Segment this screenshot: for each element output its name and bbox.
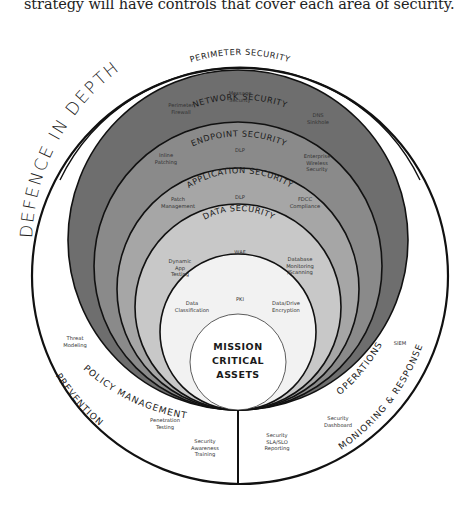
defence-in-depth-diagram: MISSION CRITICAL ASSETS DEFENCE IN DEPTH…: [0, 0, 467, 511]
control-label: SecuritySLA/SLOReporting: [264, 432, 289, 452]
core-line-1: MISSION: [213, 341, 262, 352]
core-line-2: CRITICAL: [212, 355, 264, 366]
control-label: DLP: [235, 147, 245, 153]
control-label: SecurityAwarenessTraining: [191, 438, 219, 458]
control-label: SIEM: [394, 340, 407, 346]
control-label: Data/DriveEncryption: [272, 300, 300, 314]
core-line-3: ASSETS: [216, 369, 259, 380]
control-label: PKI: [236, 296, 245, 302]
control-label: EnterpriseWirelessSecurity: [304, 153, 331, 173]
control-label: SecurityDashboard: [324, 415, 352, 428]
layer-title-perimeter: PERIMETER SECURITY: [188, 47, 292, 65]
control-label: WAF: [234, 249, 245, 255]
control-label: DatabaseMonitoring/Scanning: [286, 256, 314, 276]
control-label: PerimeterFirewall: [168, 102, 194, 115]
control-label: ThreatModeling: [63, 335, 87, 349]
control-label: DLP: [235, 194, 245, 200]
control-label: MessageSecurity: [229, 90, 252, 104]
